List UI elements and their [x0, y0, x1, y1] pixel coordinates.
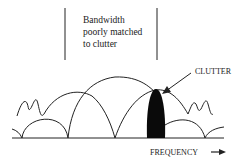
clutter-arrow-shaft — [166, 73, 191, 91]
annotation-line-2: poorly matched — [83, 27, 143, 37]
left-wavy-sidelobe — [17, 100, 44, 116]
annotation-line-3: to clutter — [83, 39, 118, 49]
filter-response-curves — [12, 77, 224, 138]
right-edge-lobe — [205, 127, 224, 138]
annotation-line-1: Bandwidth — [83, 15, 125, 25]
left-edge-lobe — [12, 129, 22, 138]
clutter-bandwidth-diagram: Bandwidth poorly matched to clutter CLUT… — [0, 0, 247, 166]
clutter-label: CLUTTER — [195, 67, 232, 76]
left-medium-lobe — [44, 92, 115, 138]
frequency-arrow-head — [219, 149, 226, 155]
right-small-lobe — [165, 120, 205, 138]
frequency-axis-label: FREQUENCY — [150, 148, 198, 157]
clutter-spectrum — [147, 89, 165, 138]
left-small-lobe — [22, 119, 68, 138]
center-main-lobe — [68, 77, 160, 138]
right-wavy-sidelobe — [188, 101, 213, 115]
